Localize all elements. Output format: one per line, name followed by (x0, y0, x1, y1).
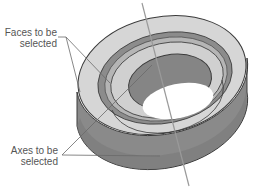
axes-callout-line-2: selected (10, 156, 58, 167)
faces-callout-label: Faces to be selected (3, 27, 57, 49)
faces-callout-line-2: selected (3, 38, 57, 49)
faces-callout-line-1: Faces to be (3, 27, 57, 38)
axes-callout-label: Axes to be selected (10, 145, 58, 167)
axes-callout-line-1: Axes to be (10, 145, 58, 156)
